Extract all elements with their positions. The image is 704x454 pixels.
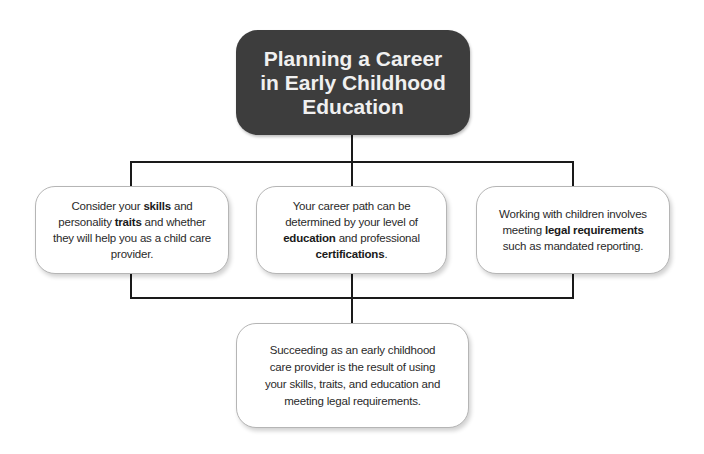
keyword-education: education bbox=[283, 232, 336, 244]
node-skills-traits: Consider your skills and personality tra… bbox=[35, 186, 229, 274]
connector-top-right-drop bbox=[572, 161, 574, 187]
title-line-2: in Early Childhood bbox=[260, 71, 446, 95]
node-text: Succeeding as an early childhood care pr… bbox=[259, 342, 446, 410]
connector-title-down bbox=[351, 135, 353, 163]
keyword-skills: skills bbox=[143, 200, 171, 212]
diagram-title: Planning a Career in Early Childhood Edu… bbox=[236, 30, 470, 135]
connector-to-conclusion bbox=[351, 297, 353, 324]
text-run: such as mandated reporting. bbox=[503, 240, 643, 252]
node-conclusion: Succeeding as an early childhood care pr… bbox=[236, 323, 469, 428]
text-run: Consider your bbox=[71, 200, 143, 212]
text-run: . bbox=[384, 248, 387, 260]
connector-top-left-drop bbox=[130, 161, 132, 187]
connector-bottom-left-rise bbox=[130, 274, 132, 299]
node-text: Your career path can be determined by yo… bbox=[269, 198, 434, 262]
node-legal-requirements: Working with children involves meeting l… bbox=[476, 186, 670, 274]
node-education-certifications: Your career path can be determined by yo… bbox=[256, 186, 447, 274]
node-text: Working with children involves meeting l… bbox=[491, 206, 655, 254]
connector-top-center-drop bbox=[351, 161, 353, 187]
title-line-1: Planning a Career bbox=[260, 47, 446, 71]
connector-bottom-center-rise bbox=[351, 274, 353, 299]
text-run: and professional bbox=[336, 232, 420, 244]
connector-bottom-right-rise bbox=[572, 274, 574, 299]
text-run: Your career path can be determined by yo… bbox=[285, 200, 418, 228]
title-line-3: Education bbox=[260, 95, 446, 119]
keyword-certifications: certifications bbox=[316, 248, 385, 260]
keyword-traits: traits bbox=[115, 216, 142, 228]
keyword-legal-requirements: legal requirements bbox=[545, 224, 644, 236]
node-text: Consider your skills and personality tra… bbox=[48, 198, 216, 262]
